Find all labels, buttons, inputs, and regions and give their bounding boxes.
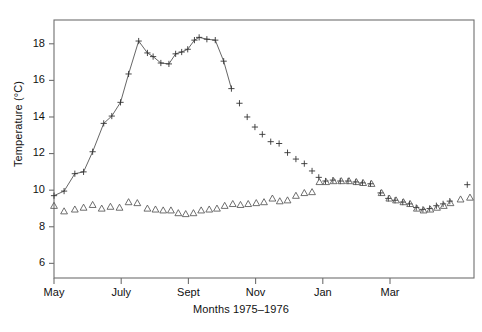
data-point-plus — [136, 38, 142, 44]
x-tick-label: Jan — [314, 286, 332, 298]
data-point-plus — [244, 114, 250, 120]
data-point-triangle — [413, 205, 420, 211]
data-point-plus — [144, 50, 150, 56]
data-point-plus — [268, 139, 274, 145]
data-point-plus — [309, 168, 315, 174]
y-tick-label: 18 — [33, 37, 45, 49]
data-point-triangle — [190, 210, 197, 216]
x-tick-label: Mar — [381, 286, 400, 298]
data-point-triangle — [80, 204, 87, 210]
data-point-plus — [236, 100, 242, 106]
x-axis-ticks: MayJulySeptNovJanMar — [44, 278, 400, 298]
data-point-triangle — [125, 199, 132, 205]
data-point-plus — [204, 36, 210, 42]
data-point-triangle — [116, 204, 123, 210]
x-tick-label: May — [44, 286, 65, 298]
data-point-triangle — [261, 199, 268, 205]
temperature-scatter-plot: 681012141618 MayJulySeptNovJanMar — [0, 0, 482, 332]
data-point-triangle — [71, 206, 78, 212]
data-point-triangle — [293, 192, 300, 198]
data-point-triangle — [175, 210, 182, 216]
data-point-triangle — [144, 205, 151, 211]
data-point-plus — [464, 182, 470, 188]
data-point-triangle — [221, 202, 228, 208]
data-point-triangle — [160, 207, 167, 213]
data-point-plus — [173, 51, 179, 57]
data-point-triangle — [229, 200, 236, 206]
data-point-triangle — [206, 206, 213, 212]
data-point-plus — [196, 34, 202, 40]
data-point-triangle — [152, 206, 159, 212]
data-point-plus — [125, 71, 131, 77]
data-point-triangle — [457, 196, 464, 202]
data-point-triangle — [61, 208, 68, 214]
data-point-plus — [51, 193, 57, 199]
data-point-plus — [301, 161, 307, 167]
data-point-triangle — [198, 207, 205, 213]
data-point-plus — [117, 99, 123, 105]
data-point-triangle — [269, 195, 276, 201]
data-point-triangle — [98, 205, 105, 211]
y-tick-label: 12 — [33, 146, 45, 158]
data-point-plus — [90, 149, 96, 155]
data-point-plus — [228, 86, 234, 92]
data-point-plus — [252, 124, 258, 130]
data-point-plus — [221, 58, 227, 64]
data-point-plus — [293, 156, 299, 162]
x-tick-label: July — [111, 286, 131, 298]
y-axis-ticks: 681012141618 — [33, 37, 54, 269]
data-point-triangle — [330, 178, 337, 184]
data-point-plus — [259, 131, 265, 137]
data-point-plus — [191, 37, 197, 43]
data-point-plus — [212, 37, 218, 43]
data-point-plus — [166, 61, 172, 67]
y-tick-label: 6 — [39, 256, 45, 268]
data-point-plus — [61, 188, 67, 194]
data-point-triangle — [168, 207, 175, 213]
chart-figure: 681012141618 MayJulySeptNovJanMar Temper… — [0, 0, 482, 332]
data-point-triangle — [316, 179, 323, 185]
y-tick-label: 16 — [33, 73, 45, 85]
data-point-triangle — [237, 201, 244, 207]
y-tick-label: 14 — [33, 110, 45, 122]
data-point-plus — [185, 46, 191, 52]
data-point-triangle — [301, 190, 308, 196]
data-point-triangle — [89, 201, 96, 207]
y-tick-label: 8 — [39, 220, 45, 232]
data-point-triangle — [440, 202, 447, 208]
data-point-plus — [284, 150, 290, 156]
data-point-triangle — [134, 200, 141, 206]
y-axis-title: Temperature (°C) — [12, 64, 24, 184]
data-point-triangle — [284, 197, 291, 203]
x-axis-title: Months 1975–1976 — [0, 303, 482, 315]
data-point-plus — [80, 169, 86, 175]
data-point-triangle — [427, 206, 434, 212]
data-point-triangle — [276, 198, 283, 204]
series-markers — [51, 34, 474, 216]
data-point-triangle — [253, 200, 260, 206]
data-point-triangle — [309, 189, 316, 195]
x-tick-label: Nov — [246, 286, 266, 298]
data-point-triangle — [447, 200, 454, 206]
data-point-triangle — [107, 203, 114, 209]
data-point-triangle — [214, 205, 221, 211]
data-point-triangle — [467, 194, 474, 200]
data-point-triangle — [434, 204, 441, 210]
x-tick-label: Sept — [177, 286, 200, 298]
plot-frame — [54, 20, 474, 278]
data-point-triangle — [323, 179, 330, 185]
data-point-triangle — [420, 207, 427, 213]
data-point-triangle — [182, 211, 189, 217]
data-point-plus — [72, 171, 78, 177]
data-point-triangle — [245, 200, 252, 206]
y-tick-label: 10 — [33, 183, 45, 195]
data-point-plus — [179, 49, 185, 55]
data-point-plus — [276, 140, 282, 146]
